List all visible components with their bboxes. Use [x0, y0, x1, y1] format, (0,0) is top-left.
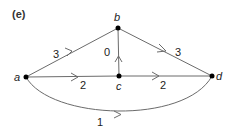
- edge-a-c: 2: [26, 73, 119, 91]
- node-d: d: [210, 70, 224, 82]
- edge-c-b: 0: [104, 28, 122, 76]
- node-a: a: [14, 71, 29, 83]
- edge-weight-c-d: 2: [160, 79, 166, 91]
- edge-weight-a-c: 2: [80, 79, 86, 91]
- node-c: c: [116, 74, 122, 93]
- node-label-c: c: [116, 80, 122, 92]
- node-label-d: d: [216, 70, 223, 82]
- edge-weight-c-b: 0: [104, 46, 110, 58]
- edge-weight-a-d: 1: [97, 116, 103, 128]
- edge-b-d: 3: [118, 28, 212, 76]
- node-b: b: [114, 11, 121, 31]
- directed-weighted-graph: (e) 3 3 0 2 2 1 a b c: [0, 0, 233, 133]
- panel-label: (e): [12, 8, 26, 20]
- edge-weight-b-d: 3: [175, 46, 181, 58]
- node-label-b: b: [114, 11, 120, 23]
- edge-c-d: 2: [119, 72, 212, 91]
- edge-weight-a-b: 3: [53, 48, 59, 60]
- node-label-a: a: [14, 71, 20, 83]
